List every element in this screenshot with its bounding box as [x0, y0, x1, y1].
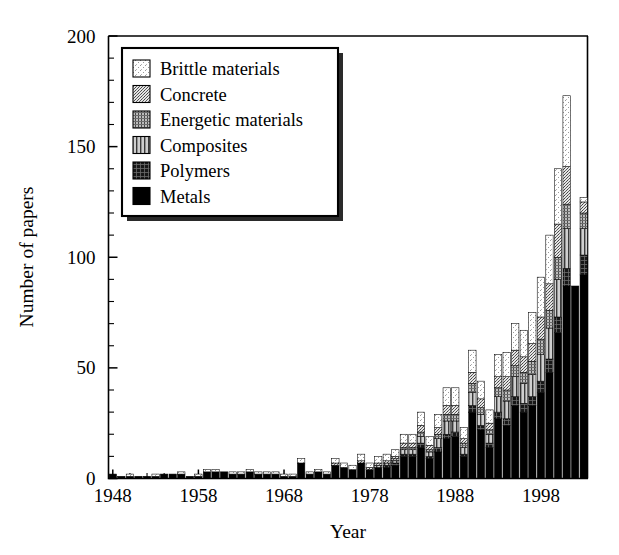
bar-segment-metals — [580, 275, 587, 479]
bar-segment-metals — [417, 448, 424, 479]
bar-1959 — [203, 470, 210, 479]
bar-segment-energetic-materials — [494, 388, 501, 397]
bar-segment-brittle-materials — [409, 434, 416, 443]
x-tick-label: 1968 — [265, 485, 303, 506]
bar-segment-polymers — [520, 403, 527, 412]
bar-1981 — [392, 450, 399, 479]
bar-1961 — [220, 472, 227, 479]
legend-item-5[interactable]: Metals — [133, 187, 210, 207]
bar-segment-brittle-materials — [306, 472, 313, 474]
bar-1974 — [332, 459, 339, 479]
bar-1970 — [297, 459, 304, 479]
x-tick-label: 1998 — [522, 485, 560, 506]
bar-segment-brittle-materials — [212, 470, 219, 472]
bar-1990 — [469, 350, 476, 478]
bar-segment-metals — [143, 476, 150, 478]
bar-segment-brittle-materials — [229, 472, 236, 474]
bar-1975 — [340, 463, 347, 478]
bar-1951 — [135, 476, 142, 478]
bar-1979 — [375, 456, 382, 478]
bar-segment-energetic-materials — [529, 361, 536, 374]
bar-segment-brittle-materials — [434, 414, 441, 427]
bar-1965 — [255, 472, 262, 479]
bar-segment-brittle-materials — [263, 472, 270, 474]
bar-segment-metals — [452, 436, 459, 478]
bar-segment-brittle-materials — [195, 474, 202, 476]
bar-segment-composites — [392, 461, 399, 463]
bar-segment-metals — [392, 465, 399, 478]
legend-label-2: Energetic materials — [160, 110, 303, 130]
bar-1986 — [434, 414, 441, 478]
bar-segment-metals — [109, 474, 116, 478]
bar-1988 — [452, 388, 459, 479]
bar-segment-composites — [494, 397, 501, 412]
bar-segment-energetic-materials — [512, 366, 519, 377]
bar-segment-polymers — [400, 454, 407, 456]
legend-swatch-crosshatch-dark-swatch — [133, 162, 150, 179]
bar-segment-brittle-materials — [546, 235, 553, 284]
bar-segment-composites — [520, 383, 527, 403]
bar-segment-brittle-materials — [383, 454, 390, 461]
y-axis-tick-labels: 050100150200 — [67, 26, 96, 490]
bar-segment-metals — [178, 474, 185, 478]
bar-segment-polymers — [529, 397, 536, 406]
bar-1962 — [229, 472, 236, 479]
bar-segment-energetic-materials — [434, 434, 441, 438]
bar-segment-brittle-materials — [238, 472, 245, 474]
stacked-bar-chart: 050100150200 194819581968197819881998 Nu… — [0, 0, 619, 555]
bar-segment-polymers — [563, 268, 570, 286]
bar-segment-brittle-materials — [349, 465, 356, 469]
bar-segment-brittle-materials — [477, 381, 484, 399]
bar-segment-concrete — [460, 439, 467, 443]
bar-1997 — [529, 313, 536, 479]
bar-segment-concrete — [357, 461, 364, 463]
bar-segment-metals — [529, 405, 536, 478]
bar-segment-brittle-materials — [255, 472, 262, 474]
bar-segment-energetic-materials — [503, 390, 510, 401]
bar-segment-metals — [297, 463, 304, 478]
bar-segment-concrete — [366, 467, 373, 469]
bar-segment-brittle-materials — [203, 470, 210, 472]
bar-segment-metals — [486, 448, 493, 479]
bar-segment-composites — [580, 228, 587, 255]
bar-segment-composites — [434, 439, 441, 448]
bar-segment-composites — [512, 377, 519, 397]
bar-segment-composites — [469, 392, 476, 405]
bar-segment-energetic-materials — [580, 213, 587, 228]
x-tick-label: 1958 — [179, 485, 217, 506]
legend-item-1[interactable]: Concrete — [133, 85, 227, 105]
bar-segment-metals — [315, 472, 322, 479]
bar-segment-brittle-materials — [512, 324, 519, 351]
bar-segment-metals — [280, 476, 287, 478]
bar-segment-energetic-materials — [537, 339, 544, 354]
bar-1998 — [537, 277, 544, 478]
bar-segment-brittle-materials — [400, 434, 407, 443]
legend-item-4[interactable]: Polymers — [133, 161, 230, 181]
bar-segment-energetic-materials — [469, 383, 476, 392]
legend-swatch-vertical-lines-swatch — [133, 137, 150, 154]
legend-label-3: Composites — [160, 136, 247, 156]
legend-item-3[interactable]: Composites — [133, 136, 247, 156]
bar-segment-brittle-materials — [503, 352, 510, 376]
bar-1955 — [169, 474, 176, 478]
bar-1978 — [366, 463, 373, 478]
bar-segment-polymers — [434, 448, 441, 452]
bar-1983 — [409, 434, 416, 478]
bar-segment-concrete — [426, 445, 433, 449]
bar-segment-metals — [537, 392, 544, 478]
bar-segment-polymers — [546, 359, 553, 372]
bar-segment-concrete — [417, 425, 424, 432]
bar-segment-brittle-materials — [460, 428, 467, 439]
bar-segment-composites — [443, 421, 450, 434]
bar-segment-composites — [375, 465, 382, 467]
bar-1985 — [426, 436, 433, 478]
bar-segment-brittle-materials — [340, 463, 347, 467]
bar-segment-metals — [246, 472, 253, 479]
bar-segment-energetic-materials — [400, 448, 407, 450]
bar-1976 — [349, 465, 356, 478]
bar-segment-metals — [477, 430, 484, 479]
bar-segment-composites — [417, 436, 424, 443]
bar-1994 — [503, 352, 510, 478]
bar-1952 — [143, 476, 150, 478]
bar-segment-polymers — [494, 412, 501, 419]
